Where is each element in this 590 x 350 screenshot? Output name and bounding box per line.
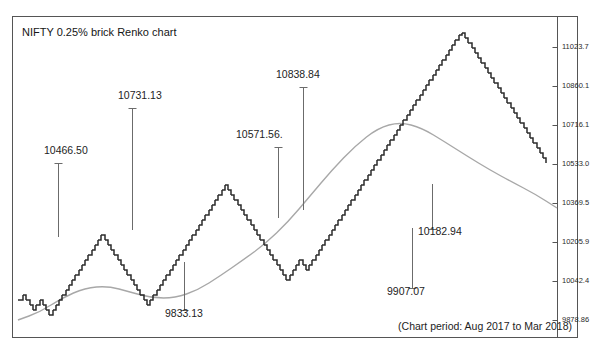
y-axis-tick-label: 9878.86 bbox=[562, 316, 589, 324]
price-annotation-label: 10731.13 bbox=[118, 90, 162, 101]
y-axis-tick-label: 10716.1 bbox=[562, 121, 589, 129]
y-axis-tick-label: 10533.0 bbox=[562, 160, 589, 168]
price-annotation-label: 10838.84 bbox=[276, 69, 320, 80]
chart-period-caption: (Chart period: Aug 2017 to Mar 2018) bbox=[398, 320, 572, 332]
y-axis-tick-label: 10042.4 bbox=[562, 277, 589, 285]
chart-background bbox=[0, 0, 590, 350]
y-axis-tick-label: 11023.7 bbox=[562, 43, 589, 51]
price-annotation-label: 10182.94 bbox=[418, 226, 462, 237]
chart-canvas bbox=[0, 0, 590, 350]
price-annotation-label: 9833.13 bbox=[165, 308, 203, 319]
chart-title: NIFTY 0.25% brick Renko chart bbox=[22, 26, 176, 38]
y-axis-tick-label: 10369.5 bbox=[562, 199, 589, 207]
price-annotation-label: 10571.56. bbox=[236, 129, 283, 140]
y-axis-tick-label: 10860.1 bbox=[562, 82, 589, 90]
price-annotation-label: 10466.50 bbox=[44, 145, 88, 156]
y-axis-tick-label: 10205.9 bbox=[562, 238, 589, 246]
renko-chart-figure: NIFTY 0.25% brick Renko chart (Chart per… bbox=[0, 0, 590, 350]
price-annotation-label: 9907.07 bbox=[387, 286, 425, 297]
